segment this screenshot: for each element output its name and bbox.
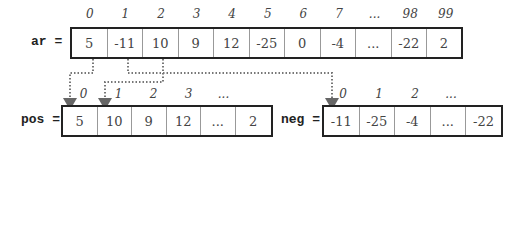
neg-cell: ...: [431, 107, 467, 135]
pos-label: pos =: [21, 112, 60, 127]
neg-array: -11 -25 -4 ... -22: [322, 105, 503, 137]
pos-index: [241, 87, 276, 101]
pos-cell: 5: [63, 107, 98, 135]
neg-label: neg =: [281, 112, 320, 127]
neg-cell: -4: [395, 107, 431, 135]
pos-cell: 2: [236, 107, 272, 135]
pos-cell: ...: [201, 107, 236, 135]
pos-cell: 9: [132, 107, 167, 135]
pos-cell: 12: [167, 107, 202, 135]
neg-cell: -25: [360, 107, 396, 135]
neg-index: [469, 87, 505, 101]
pos-index: 0: [66, 87, 101, 101]
neg-cell: -22: [466, 107, 501, 135]
pos-index-row: 0 1 2 3 ...: [66, 87, 276, 101]
neg-index-row: 0 1 2 ...: [325, 87, 505, 101]
pos-index: ...: [206, 87, 241, 101]
pos-cell: 10: [98, 107, 133, 135]
pos-array: 5 10 9 12 ... 2: [61, 105, 273, 137]
neg-index: 2: [397, 87, 433, 101]
neg-index: ...: [433, 87, 469, 101]
neg-cell: -11: [324, 107, 360, 135]
pos-index: 3: [171, 87, 206, 101]
neg-index: 0: [325, 87, 361, 101]
neg-index: 1: [361, 87, 397, 101]
pos-index: 2: [136, 87, 171, 101]
pos-index: 1: [101, 87, 136, 101]
